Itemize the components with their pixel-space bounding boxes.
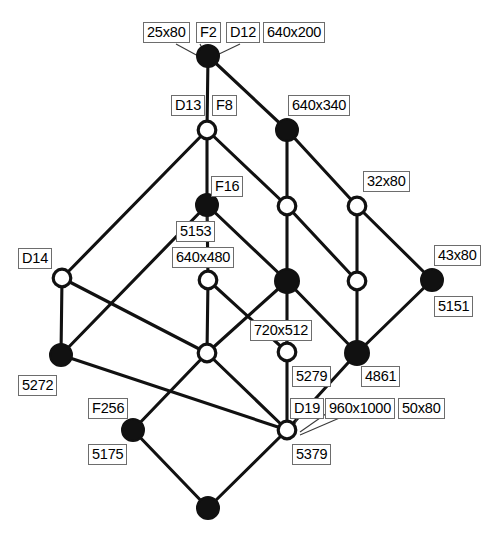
diagram-node-mid2[interactable] <box>275 269 299 293</box>
label-leader-line <box>217 44 240 55</box>
node-label-720x512: 720x512 <box>250 320 312 341</box>
node-label-640x200: 640x200 <box>263 22 325 43</box>
node-label-f8: F8 <box>212 95 237 116</box>
node-label-640x340: 640x340 <box>288 95 350 116</box>
diagram-edge <box>287 281 357 353</box>
node-label-5379: 5379 <box>292 444 331 465</box>
diagram-node-mid1[interactable] <box>278 197 296 215</box>
node-label-960x1000: 960x1000 <box>325 398 395 419</box>
diagram-edge <box>62 278 207 353</box>
node-label-f2: F2 <box>196 22 221 43</box>
node-label-d12: D12 <box>226 22 260 43</box>
node-label-25x80: 25x80 <box>143 22 190 43</box>
diagram-edge <box>207 353 287 430</box>
diagram-node-640x480[interactable] <box>199 271 217 289</box>
diagram-edge <box>207 280 208 353</box>
lattice-diagram: 25x80F2D12640x200D13F8640x340F1632x80515… <box>0 0 498 537</box>
diagram-edge <box>207 205 287 281</box>
diagram-node-640x340[interactable] <box>276 119 298 141</box>
diagram-edge <box>133 353 207 430</box>
diagram-node-d14[interactable] <box>53 269 71 287</box>
diagram-canvas <box>0 0 498 537</box>
diagram-node-43x80[interactable] <box>421 269 443 291</box>
node-label-5272: 5272 <box>18 375 57 396</box>
diagram-edge <box>357 280 432 353</box>
node-label-5175: 5175 <box>88 444 127 465</box>
diagram-node-low1[interactable] <box>198 344 216 362</box>
diagram-edge <box>357 206 432 280</box>
node-label-f16: F16 <box>211 176 243 197</box>
node-label-d13: D13 <box>171 95 205 116</box>
diagram-node-5379[interactable] <box>278 421 296 439</box>
diagram-node-5175[interactable] <box>122 419 144 441</box>
node-label-43x80: 43x80 <box>434 245 481 266</box>
diagram-node-5279[interactable] <box>278 343 296 361</box>
diagram-node-bottom[interactable] <box>197 497 219 519</box>
node-label-d19: D19 <box>290 398 324 419</box>
diagram-edge <box>208 56 287 130</box>
node-label-5279: 5279 <box>292 366 331 387</box>
diagram-node-f16[interactable] <box>196 194 218 216</box>
diagram-node-4861[interactable] <box>345 341 369 365</box>
node-label-50x80: 50x80 <box>398 398 445 419</box>
diagram-edge <box>208 430 287 508</box>
diagram-node-mid3[interactable] <box>348 272 366 290</box>
node-label-5153: 5153 <box>176 221 215 242</box>
node-label-32x80: 32x80 <box>363 171 410 192</box>
diagram-node-d13[interactable] <box>198 121 216 139</box>
node-label-4861: 4861 <box>361 366 400 387</box>
node-label-f256: F256 <box>88 398 128 419</box>
edges-layer <box>61 56 432 508</box>
node-label-5151: 5151 <box>434 296 473 317</box>
diagram-edge <box>287 130 357 206</box>
node-label-d14: D14 <box>18 248 52 269</box>
diagram-edge <box>133 430 208 508</box>
diagram-node-d12[interactable] <box>197 45 219 67</box>
diagram-node-32x80[interactable] <box>348 197 366 215</box>
diagram-node-5272[interactable] <box>50 344 72 366</box>
node-label-640x480: 640x480 <box>172 247 234 268</box>
diagram-edge <box>287 206 357 281</box>
